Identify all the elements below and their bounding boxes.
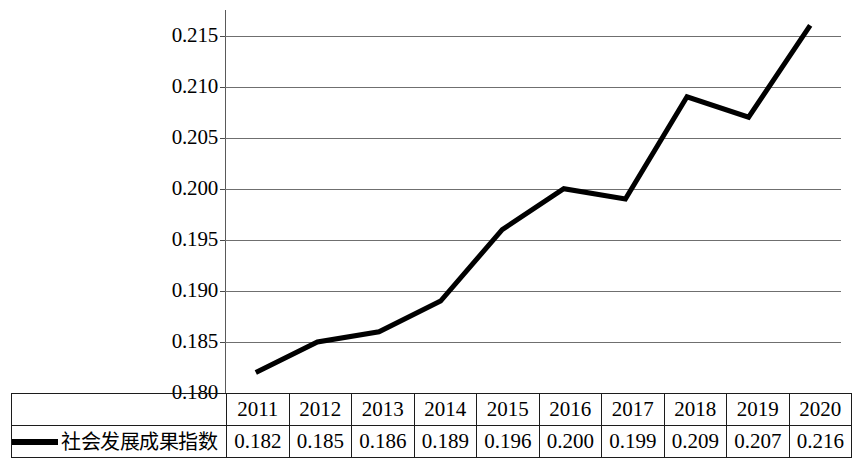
table-year-2012: 2012 <box>289 394 352 426</box>
table-value-2016: 0.200 <box>539 426 602 458</box>
legend-label: 社会发展成果指数 <box>61 432 217 452</box>
legend-cell: 社会发展成果指数 <box>12 426 227 458</box>
series-line-社会发展成果指数 <box>256 25 810 372</box>
data-table: 2011201220132014201520162017201820192020… <box>11 393 852 458</box>
legend-line-icon <box>12 439 58 445</box>
table-value-2012: 0.185 <box>289 426 352 458</box>
table-year-2015: 2015 <box>477 394 540 426</box>
table-value-2018: 0.209 <box>664 426 727 458</box>
table-value-2020: 0.216 <box>789 426 852 458</box>
table-value-2013: 0.186 <box>352 426 415 458</box>
table-corner-blank <box>12 394 227 426</box>
table-year-2014: 2014 <box>414 394 477 426</box>
table-value-2017: 0.199 <box>602 426 665 458</box>
table-year-2019: 2019 <box>727 394 790 426</box>
table-value-2015: 0.196 <box>477 426 540 458</box>
y-axis-label-0.210: 0.210 <box>148 76 218 97</box>
table-year-2020: 2020 <box>789 394 852 426</box>
table-year-2013: 2013 <box>352 394 415 426</box>
table-year-2011: 2011 <box>227 394 290 426</box>
table-value-2019: 0.207 <box>727 426 790 458</box>
plot-area <box>225 10 841 393</box>
table-year-2016: 2016 <box>539 394 602 426</box>
y-axis-label-0.200: 0.200 <box>148 178 218 199</box>
series-line-chart <box>225 10 841 393</box>
y-axis-label-0.195: 0.195 <box>148 229 218 250</box>
y-axis-label-0.185: 0.185 <box>148 331 218 352</box>
table-year-2017: 2017 <box>602 394 665 426</box>
y-axis-label-group: 0.1800.1850.1900.1950.2000.2050.2100.215 <box>148 0 218 460</box>
table-value-2011: 0.182 <box>227 426 290 458</box>
table-year-2018: 2018 <box>664 394 727 426</box>
table-value-2014: 0.189 <box>414 426 477 458</box>
y-axis-label-0.190: 0.190 <box>148 280 218 301</box>
table-row-values: 社会发展成果指数 0.1820.1850.1860.1890.1960.2000… <box>12 426 852 458</box>
table-row-years: 2011201220132014201520162017201820192020 <box>12 394 852 426</box>
y-axis-label-0.215: 0.215 <box>148 25 218 46</box>
y-axis-label-0.205: 0.205 <box>148 127 218 148</box>
